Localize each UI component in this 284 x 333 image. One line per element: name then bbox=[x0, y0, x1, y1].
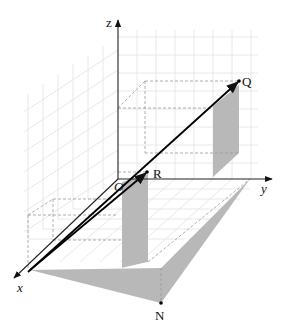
point-Q bbox=[237, 79, 241, 83]
origin-label: O bbox=[114, 179, 124, 194]
point-R bbox=[145, 170, 149, 174]
xz-plane-grid bbox=[24, 46, 118, 239]
shade-vertical-strip bbox=[122, 174, 148, 268]
y-axis-label: y bbox=[259, 181, 267, 196]
3d-vector-diagram: z y x O Q R N bbox=[0, 0, 284, 333]
point-N-label: N bbox=[155, 308, 165, 323]
point-R-label: R bbox=[153, 166, 162, 181]
x-axis-label: x bbox=[16, 280, 23, 295]
z-axis-label: z bbox=[106, 15, 112, 30]
point-Q-label: Q bbox=[242, 74, 252, 89]
point-N bbox=[159, 301, 163, 305]
